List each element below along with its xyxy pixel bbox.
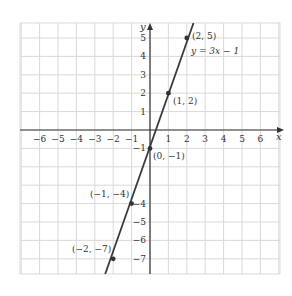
y-tick-label: −4 — [133, 199, 147, 209]
y-tick-label: 4 — [140, 51, 146, 61]
y-tick-label: −1 — [133, 143, 146, 153]
point-label-neg2-neg7: (−2, −7) — [72, 244, 111, 254]
point-label-0-neg1: (0, −1) — [153, 151, 185, 161]
x-tick-label: 1 — [166, 134, 172, 144]
x-tick-label: 6 — [258, 134, 264, 144]
x-tick-labels: −6−5−4−3−2−1123456 — [33, 134, 264, 144]
y-axis-arrow-icon — [147, 23, 153, 30]
point-neg2-neg7 — [111, 256, 116, 261]
y-tick-label: 3 — [140, 70, 146, 80]
x-tick-label: −6 — [33, 134, 47, 144]
x-tick-label: −5 — [51, 134, 65, 144]
y-tick-label: 2 — [140, 88, 146, 98]
y-tick-label: 5 — [140, 33, 146, 43]
y-tick-label: −6 — [133, 235, 147, 245]
point-label-1-2: (1, 2) — [173, 96, 197, 106]
x-tick-label: 4 — [221, 134, 227, 144]
y-tick-label: −7 — [133, 254, 147, 264]
x-tick-label: 5 — [239, 134, 245, 144]
equation-label: y = 3x − 1 — [190, 46, 239, 56]
point-2-5 — [184, 36, 189, 41]
x-axis-label: x — [276, 131, 282, 142]
y-tick-label: 1 — [140, 107, 146, 117]
point-neg1-neg4 — [129, 201, 134, 206]
x-tick-label: −2 — [107, 134, 120, 144]
y-tick-label: −5 — [133, 217, 147, 227]
point-0-neg1 — [148, 146, 153, 151]
point-label-neg1-neg4: (−1, −4) — [90, 189, 129, 199]
y-tick-labels: 54321−1−4−5−6−7 — [133, 33, 147, 264]
x-tick-label: −3 — [88, 134, 102, 144]
x-tick-label: 2 — [184, 134, 190, 144]
x-tick-label: 3 — [202, 134, 208, 144]
line-graph: x y −6−5−4−3−2−1123456 54321−1−4−5−6−7 (… — [0, 0, 292, 296]
x-tick-label: −4 — [70, 134, 84, 144]
y-axis-label: y — [139, 21, 146, 32]
point-label-2-5: (2, 5) — [192, 31, 216, 41]
point-1-2 — [166, 91, 171, 96]
